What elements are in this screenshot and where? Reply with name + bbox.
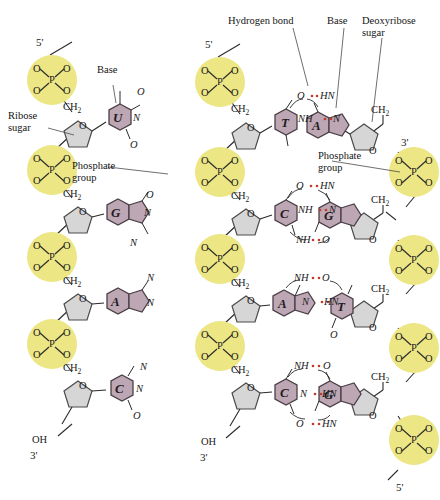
hbond-atom: HN xyxy=(324,296,339,307)
rna-3prime-label: 3' xyxy=(30,449,37,461)
dna-callout-base: Base xyxy=(327,15,347,27)
dna-base-letter-C-left: C xyxy=(280,385,289,401)
dna-o-atom: O xyxy=(231,329,239,340)
dna-o-atom: O xyxy=(425,423,433,434)
hbond-atom: N xyxy=(300,388,307,399)
dna-o-atom: O xyxy=(201,177,209,188)
dna-left-ring-o: O xyxy=(247,295,255,306)
hbond-dots xyxy=(310,95,333,426)
rna-ch2-3: CH2 xyxy=(63,275,81,289)
dna-p-left: P xyxy=(217,76,223,87)
rna-o-atom: O xyxy=(33,153,41,164)
rna-o-atom: O xyxy=(33,175,41,186)
dna-left-sugar-2 xyxy=(232,209,260,235)
dna-o-atom: O xyxy=(425,353,433,364)
rna-p-1: P xyxy=(49,74,55,85)
rna-p-3: P xyxy=(49,251,55,262)
dna-callout-phosphate-group: Phosphate group xyxy=(318,150,361,173)
dna-base-letter-T-left: T xyxy=(281,115,289,131)
dna-right-ch2: CH2 xyxy=(371,283,389,297)
dna-o-atom: O xyxy=(201,329,209,340)
dna-o-atom: O xyxy=(201,351,209,362)
rna-a-sub-n2: N xyxy=(147,297,154,308)
dna-left-3prime-label: 3' xyxy=(200,451,207,463)
rna-o-atom: O xyxy=(33,327,41,338)
dna-p-right: P xyxy=(411,434,417,445)
dna-base-letter-C-left: C xyxy=(280,206,289,222)
dna-left-ch2: CH2 xyxy=(231,103,249,117)
hbond-atom: O xyxy=(297,90,305,101)
hbond-atom: O xyxy=(296,180,304,191)
rna-o-atom: O xyxy=(63,349,71,360)
rna-sugar-3 xyxy=(64,294,92,320)
hbond-atom: N xyxy=(329,204,336,215)
dna-o-atom: O xyxy=(395,155,403,166)
hbond-atom: NH xyxy=(298,204,313,215)
dna-left-ring-o: O xyxy=(247,382,255,393)
dna-o-atom: O xyxy=(395,423,403,434)
dna-o-atom: O xyxy=(425,155,433,166)
dna-right-ring-o: O xyxy=(369,145,377,156)
rna-callout-ribose-sugar: Ribose sugar xyxy=(8,110,37,133)
dna-o-atom: O xyxy=(425,331,433,342)
dna-right-ring-o: O xyxy=(369,410,377,421)
hbond-atom: HN xyxy=(320,90,335,101)
rna-o-atom: O xyxy=(63,153,71,164)
rna-sugar-2 xyxy=(64,207,92,233)
dna-left-sugar-3 xyxy=(232,296,260,322)
dna-o-atom: O xyxy=(395,265,403,276)
dna-base-G-right-1 xyxy=(315,193,361,232)
dna-callout-deoxyribose-sugar: Deoxyribose sugar xyxy=(362,15,416,38)
dna-o-atom: O xyxy=(231,351,239,362)
rna-u-sub-n: N xyxy=(133,112,140,123)
rna-ch2-1: CH2 xyxy=(63,101,81,115)
rna-o-atom: O xyxy=(33,262,41,273)
rna-callout-phosphate-group: Phosphate group xyxy=(72,160,115,183)
rna-a-sub-n1: N xyxy=(147,272,154,283)
rna-ring-o-2: O xyxy=(79,206,87,217)
hbond-atom: NH xyxy=(298,113,313,124)
hbond-atom: O xyxy=(322,234,330,245)
rna-u-sub-o-bot: O xyxy=(130,139,138,150)
dna-o-atom: O xyxy=(395,353,403,364)
rna-ring-o-3: O xyxy=(79,293,87,304)
dna-right-ring-o: O xyxy=(369,322,377,333)
dna-o-atom: O xyxy=(201,155,209,166)
hbond-atom: HN xyxy=(322,418,337,429)
dna-o-atom: O xyxy=(395,445,403,456)
dna-o-atom: O xyxy=(395,243,403,254)
dna-o-atom: O xyxy=(231,87,239,98)
dna-left-sugar-4 xyxy=(232,383,260,409)
rna-o-atom: O xyxy=(63,63,71,74)
rna-callout-base: Base xyxy=(97,64,117,76)
rna-c-sub-n2: N xyxy=(136,383,143,394)
dna-o-atom: O xyxy=(395,177,403,188)
dna-left-ch2: CH2 xyxy=(231,364,249,378)
rna-p-2: P xyxy=(49,164,55,175)
hbond-atom: NH xyxy=(294,360,309,371)
dna-left-ring-o: O xyxy=(247,208,255,219)
rna-o-atom: O xyxy=(63,175,71,186)
rna-o-atom: O xyxy=(33,85,41,96)
rna-g-sub-o: O xyxy=(146,189,154,200)
rna-o-atom: O xyxy=(33,349,41,360)
rna-base-letter-U: U xyxy=(113,110,122,126)
dna-o-atom: O xyxy=(425,177,433,188)
rna-o-atom: O xyxy=(63,262,71,273)
rna-base-letter-G: G xyxy=(111,205,120,221)
rna-terminal-oh: OH xyxy=(32,434,47,445)
dna-base-letter-A-right: A xyxy=(312,118,321,134)
rna-sugar-4 xyxy=(64,381,92,407)
hbond-atom: O xyxy=(322,272,330,283)
dna-o-atom: O xyxy=(231,65,239,76)
dna-left-sugar-1 xyxy=(232,123,260,149)
hbond-atom: HN xyxy=(322,388,337,399)
rna-c-sub-n1: N xyxy=(140,361,147,372)
dna-right-ch2: CH2 xyxy=(371,194,389,208)
hbond-atom: NH xyxy=(296,234,311,245)
dna-o-atom: O xyxy=(201,242,209,253)
rna-c-sub-o: O xyxy=(133,410,141,421)
dna-left-ch2: CH2 xyxy=(231,277,249,291)
dna-base-letter-A-left: A xyxy=(278,296,287,312)
dna-o-atom: O xyxy=(231,242,239,253)
